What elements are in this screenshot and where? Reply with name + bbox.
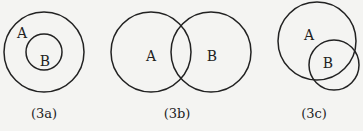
set-a-label: A: [145, 48, 157, 64]
caption-3b: (3b): [164, 106, 191, 121]
set-b-circle: [309, 40, 359, 90]
venn-diagram-figure: A B (3a) A B (3b) A B (3c): [0, 0, 363, 131]
set-a-circle: [278, 2, 356, 80]
set-a-label: A: [303, 27, 315, 43]
caption-3c: (3c): [301, 106, 327, 121]
set-b-label: B: [323, 55, 333, 71]
set-b-label: B: [40, 53, 50, 69]
diagram-3c: A B (3c): [278, 2, 359, 121]
diagram-3a: A B (3a): [4, 12, 84, 121]
set-b-label: B: [207, 48, 217, 64]
caption-3a: (3a): [31, 106, 57, 121]
set-a-label: A: [16, 25, 28, 41]
diagram-3b: A B (3b): [111, 12, 251, 121]
set-a-circle: [4, 12, 84, 92]
